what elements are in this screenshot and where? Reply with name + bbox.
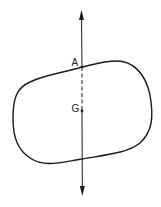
label-a: A (72, 57, 79, 68)
point-a-marker (81, 66, 84, 69)
diagram-canvas: A G (0, 0, 161, 207)
arrow-up-icon (79, 10, 84, 20)
point-g-marker (81, 110, 84, 113)
label-g: G (72, 103, 80, 114)
line-of-action-upper (82, 16, 83, 67)
arrow-down-icon (80, 186, 85, 196)
